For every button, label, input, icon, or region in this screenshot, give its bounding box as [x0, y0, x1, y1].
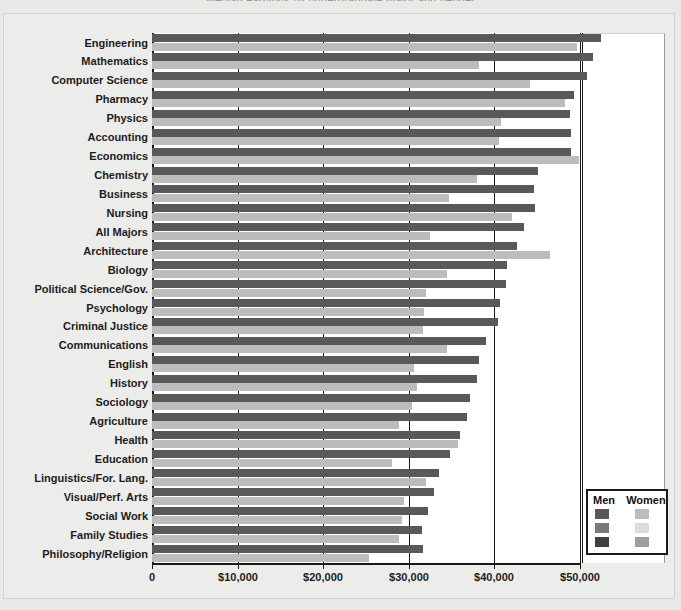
category-label: Agriculture	[89, 415, 148, 427]
x-tick	[494, 563, 495, 569]
legend-row	[593, 521, 662, 535]
category-label: Social Work	[85, 510, 148, 522]
x-tick	[152, 563, 153, 569]
legend-row	[593, 535, 662, 549]
legend-swatch-men	[595, 523, 609, 533]
category-label: Health	[114, 434, 148, 446]
category-label: Visual/Perf. Arts	[64, 491, 148, 503]
x-axis-line	[152, 563, 581, 565]
bar-men	[152, 469, 439, 477]
bar-women	[152, 137, 499, 145]
bar-men	[152, 299, 500, 307]
category-label: English	[108, 358, 148, 370]
category-label: Communications	[59, 339, 148, 351]
category-label: Sociology	[95, 396, 148, 408]
bar-women	[152, 383, 417, 391]
bar-women	[152, 251, 550, 259]
bar-men	[152, 91, 574, 99]
category-label: Family Studies	[70, 529, 148, 541]
bar-women	[152, 497, 404, 505]
x-tick-label: $50,000	[560, 571, 600, 583]
legend-header-women: Women	[626, 494, 666, 506]
bar-women	[152, 213, 512, 221]
bar-women	[152, 289, 426, 297]
category-label: Business	[99, 188, 148, 200]
bar-men	[152, 280, 506, 288]
bar-men	[152, 526, 422, 534]
bar-women	[152, 194, 449, 202]
bar-men	[152, 204, 535, 212]
legend-header: Men Women	[593, 494, 662, 507]
category-label: Political Science/Gov.	[34, 283, 148, 295]
category-label: Mathematics	[81, 55, 148, 67]
bar-men	[152, 450, 450, 458]
category-label: Biology	[108, 264, 148, 276]
bar-men	[152, 34, 601, 42]
bar-women	[152, 345, 447, 353]
category-label: Linguistics/For. Lang.	[34, 472, 148, 484]
legend-swatch-women	[635, 523, 649, 533]
category-label: Computer Science	[51, 74, 148, 86]
bar-men	[152, 337, 486, 345]
bar-men	[152, 545, 423, 553]
bar-men	[152, 72, 587, 80]
bar-women	[152, 402, 412, 410]
category-label: Nursing	[106, 207, 148, 219]
bar-men	[152, 261, 507, 269]
category-label: Accounting	[88, 131, 149, 143]
gridline	[580, 33, 581, 563]
category-label: Physics	[106, 112, 148, 124]
x-tick	[238, 563, 239, 569]
bar-men	[152, 185, 534, 193]
category-label: Economics	[89, 150, 148, 162]
bar-men	[152, 488, 434, 496]
bar-women	[152, 99, 565, 107]
category-label: Criminal Justice	[63, 320, 148, 332]
bar-men	[152, 318, 498, 326]
chart-title: Median earnings by undergraduate major a…	[0, 0, 681, 1]
legend-swatch-men	[595, 509, 609, 519]
bar-men	[152, 110, 570, 118]
legend-swatch-women	[635, 537, 649, 547]
bar-men	[152, 375, 477, 383]
plot-right-extension	[580, 33, 665, 563]
bar-men	[152, 356, 479, 364]
bar-women	[152, 421, 399, 429]
legend-header-men: Men	[593, 494, 615, 506]
category-label: Psychology	[86, 302, 148, 314]
bar-women	[152, 118, 501, 126]
bar-men	[152, 431, 460, 439]
bar-women	[152, 156, 579, 164]
category-label: History	[110, 377, 148, 389]
bar-women	[152, 43, 577, 51]
category-label: Architecture	[83, 245, 148, 257]
legend-swatch-men	[595, 537, 609, 547]
x-tick-label: $30,000	[389, 571, 429, 583]
bar-women	[152, 459, 392, 467]
bar-men	[152, 167, 538, 175]
bar-women	[152, 440, 458, 448]
x-tick-label: $10,000	[218, 571, 258, 583]
bar-women	[152, 270, 447, 278]
category-label: Chemistry	[94, 169, 148, 181]
bar-women	[152, 308, 424, 316]
bar-women	[152, 535, 399, 543]
category-label: Education	[95, 453, 148, 465]
legend-swatch-rows	[593, 507, 662, 549]
bar-men	[152, 148, 571, 156]
category-label: Engineering	[84, 37, 148, 49]
category-label: All Majors	[95, 226, 148, 238]
bar-women	[152, 364, 414, 372]
bar-men	[152, 129, 571, 137]
bar-women	[152, 478, 426, 486]
x-tick	[580, 563, 581, 569]
x-tick	[409, 563, 410, 569]
bar-men	[152, 394, 470, 402]
category-label: Philosophy/Religion	[42, 548, 148, 560]
bar-women	[152, 61, 479, 69]
bar-men	[152, 223, 524, 231]
bar-men	[152, 413, 467, 421]
bar-women	[152, 175, 477, 183]
bar-men	[152, 53, 593, 61]
x-tick-label: 0	[149, 571, 155, 583]
